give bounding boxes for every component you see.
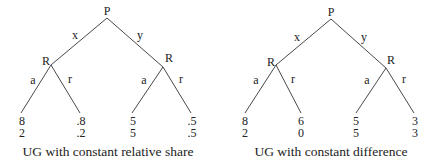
edge-x	[51, 18, 107, 65]
edge-left-a	[21, 65, 51, 113]
edge-label-y: y	[361, 30, 367, 44]
edge-label-x: x	[72, 28, 78, 42]
edge-label-right-r: r	[402, 72, 406, 86]
tree-constant-difference: P R R x y a r a r 8 2 6 0 5 5 3 3 UG wit…	[242, 5, 418, 159]
edge-right-r	[163, 67, 191, 113]
payoff-1-responder: 2	[242, 126, 248, 140]
right-responder-node-label: R	[165, 51, 173, 65]
edge-label-right-a: a	[364, 73, 370, 87]
payoff-2-responder: .2	[77, 126, 86, 140]
payoff-3-responder: 5	[130, 126, 136, 140]
edge-label-left-a: a	[253, 73, 259, 87]
edge-label-left-a: a	[30, 73, 36, 87]
edge-label-y: y	[137, 28, 143, 42]
payoff-2-responder: 0	[298, 126, 304, 140]
edge-right-a	[356, 68, 386, 113]
root-node-label: P	[104, 4, 111, 18]
edge-y	[107, 18, 163, 67]
payoff-1-responder: 2	[19, 126, 25, 140]
edge-label-right-r: r	[179, 72, 183, 86]
edge-label-left-r: r	[291, 72, 295, 86]
caption: UG with constant relative share	[23, 144, 194, 159]
edge-label-right-a: a	[141, 73, 147, 87]
payoff-3-responder: 5	[353, 126, 359, 140]
caption: UG with constant difference	[254, 144, 407, 159]
payoff-4-responder: 3	[412, 126, 418, 140]
edge-left-a	[245, 65, 276, 113]
edge-right-r	[386, 68, 414, 113]
left-responder-node-label: R	[267, 55, 275, 69]
edge-y	[331, 19, 386, 68]
right-responder-node-label: R	[387, 53, 395, 67]
edge-x	[276, 19, 331, 65]
payoff-4-responder: .5	[188, 126, 197, 140]
tree-constant-relative-share: P R R x y a r a r 8 2 .8 .2 5 5 .5 .5 UG…	[19, 4, 197, 159]
edge-label-left-r: r	[68, 72, 72, 86]
edge-left-r	[276, 65, 301, 113]
edge-label-x: x	[294, 30, 300, 44]
edge-right-a	[132, 67, 163, 113]
root-node-label: P	[328, 5, 335, 19]
edge-left-r	[51, 65, 80, 113]
game-trees-figure: P R R x y a r a r 8 2 .8 .2 5 5 .5 .5 UG…	[0, 0, 440, 159]
left-responder-node-label: R	[42, 54, 50, 68]
